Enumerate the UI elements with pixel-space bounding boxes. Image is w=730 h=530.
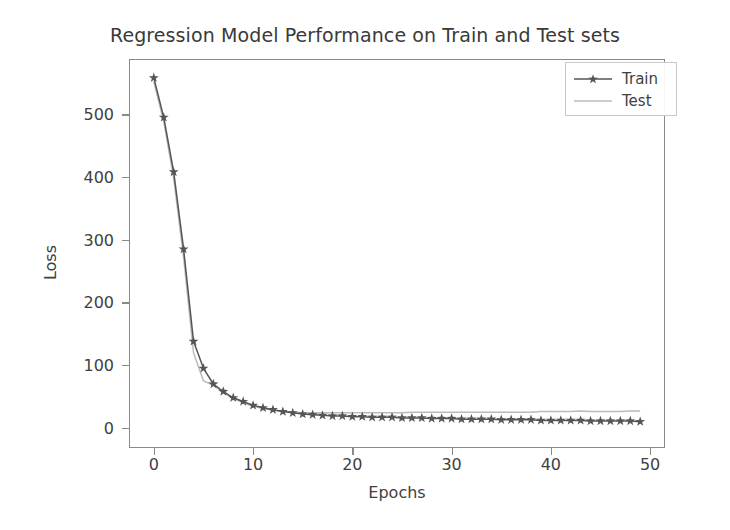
data-point-marker — [278, 406, 288, 415]
y-tick-mark — [122, 428, 129, 429]
data-point-marker — [536, 415, 546, 424]
data-point-marker — [288, 408, 298, 417]
chart-title: Regression Model Performance on Train an… — [0, 24, 730, 46]
x-tick-label: 0 — [124, 455, 184, 474]
y-tick-mark — [122, 302, 129, 303]
x-tick-mark — [650, 448, 651, 455]
x-tick-mark — [154, 448, 155, 455]
data-point-marker — [189, 336, 199, 345]
series-line-train — [149, 73, 645, 426]
data-point-marker — [248, 400, 258, 409]
legend-label-test: Test — [622, 94, 652, 109]
data-point-marker — [516, 415, 526, 424]
series-line-test — [154, 82, 640, 413]
data-point-marker — [556, 415, 566, 424]
data-point-marker — [576, 415, 586, 424]
y-tick-mark — [122, 177, 129, 178]
line-path — [154, 82, 640, 413]
y-tick-label: 500 — [50, 105, 114, 124]
legend-item-train: Train — [573, 68, 669, 90]
line-path — [154, 78, 640, 422]
chart-legend: Train Test — [565, 62, 677, 116]
x-tick-label: 10 — [223, 455, 283, 474]
legend-item-test: Test — [573, 90, 669, 112]
y-tick-label: 100 — [50, 356, 114, 375]
legend-swatch-test — [573, 94, 613, 108]
x-axis-label: Epochs — [129, 483, 665, 502]
data-point-marker — [506, 415, 516, 424]
data-point-marker — [635, 416, 645, 425]
data-point-marker — [268, 405, 278, 414]
data-point-marker — [258, 403, 268, 412]
legend-label-train: Train — [622, 72, 658, 87]
data-point-marker — [625, 416, 635, 425]
y-tick-label: 300 — [50, 230, 114, 249]
x-tick-mark — [551, 448, 552, 455]
data-point-marker — [298, 409, 308, 418]
x-tick-label: 20 — [322, 455, 382, 474]
legend-swatch-train — [573, 72, 613, 86]
y-tick-label: 200 — [50, 293, 114, 312]
x-tick-label: 30 — [422, 455, 482, 474]
x-tick-mark — [352, 448, 353, 455]
data-point-marker — [596, 416, 606, 425]
data-point-marker — [496, 415, 506, 424]
data-point-marker — [427, 413, 437, 422]
chart-canvas: Regression Model Performance on Train an… — [0, 0, 730, 530]
data-point-marker — [466, 414, 476, 423]
data-point-marker — [566, 415, 576, 424]
x-tick-mark — [452, 448, 453, 455]
data-point-marker — [447, 413, 457, 422]
data-point-marker — [526, 415, 536, 424]
data-point-marker — [476, 414, 486, 423]
data-point-marker — [407, 413, 417, 422]
x-tick-label: 50 — [620, 455, 680, 474]
data-point-marker — [457, 414, 467, 423]
data-point-marker — [546, 415, 556, 424]
y-tick-mark — [122, 114, 129, 115]
y-tick-mark — [122, 365, 129, 366]
data-point-marker — [486, 414, 496, 423]
data-point-marker — [308, 410, 318, 419]
data-point-marker — [615, 416, 625, 425]
plot-area — [129, 59, 665, 448]
data-point-marker — [437, 413, 447, 422]
data-point-marker — [605, 416, 615, 425]
x-tick-label: 40 — [521, 455, 581, 474]
y-tick-mark — [122, 240, 129, 241]
data-point-marker — [417, 413, 427, 422]
y-tick-label: 0 — [50, 418, 114, 437]
y-tick-label: 400 — [50, 167, 114, 186]
data-point-marker — [586, 416, 596, 425]
data-point-marker — [318, 410, 328, 419]
x-tick-mark — [253, 448, 254, 455]
data-point-marker — [397, 413, 407, 422]
